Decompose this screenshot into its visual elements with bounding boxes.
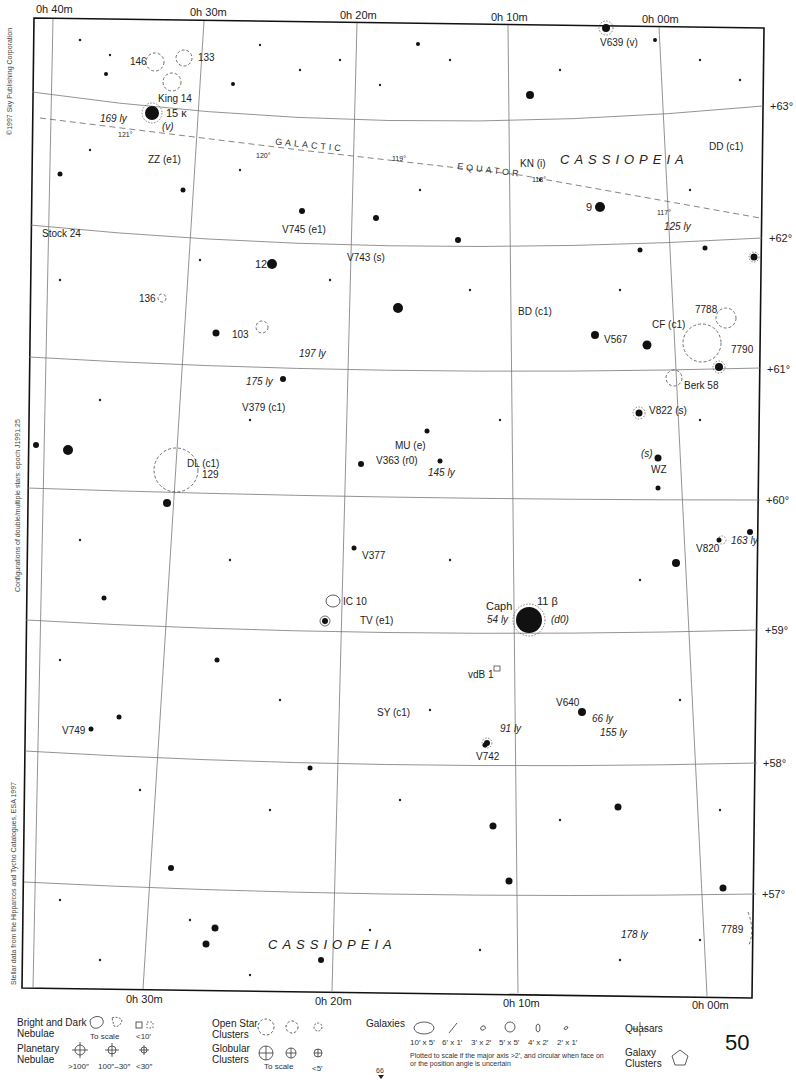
- dist-54-label: 54 ly: [487, 615, 508, 625]
- ngc136-cluster: [158, 294, 166, 302]
- kappa-label: 15 κ: [166, 108, 187, 119]
- ra-label-bottom-30m: 0h 30m: [126, 993, 163, 1005]
- ra-label-top-20m: 0h 20m: [340, 9, 377, 21]
- v742-label: V742: [476, 752, 499, 762]
- tv-label: TV (e1): [360, 616, 393, 626]
- legend-galaxy-note: Plotted to scale if the major axis >2′, …: [410, 1052, 610, 1068]
- legend-open-clusters: Open Star Clusters: [212, 1018, 264, 1040]
- ra-label-bottom-00m: 0h 00m: [692, 999, 729, 1011]
- legend-galaxy-size-1: 10′ x 5′: [410, 1038, 435, 1047]
- ngc146-label: 146: [130, 57, 147, 67]
- bd-label: BD (c1): [518, 307, 552, 317]
- v379-label: V379 (c1): [242, 403, 285, 413]
- legend-pn-mid: 100″–30″: [98, 1062, 130, 1071]
- legend-galaxy-size-2: 6′ x 1′: [442, 1038, 462, 1047]
- dec-grid-lines: [24, 92, 763, 896]
- king14-label: King 14: [158, 94, 192, 104]
- star-12-label: 12: [255, 259, 267, 270]
- ngc7790-cluster: [683, 324, 721, 362]
- dec-label-62: +62°: [769, 232, 792, 244]
- ic10-galaxy: [326, 595, 340, 607]
- legend-galaxy-size-3: 3′ x 2′: [471, 1038, 491, 1047]
- dist-66-label: 66 ly: [592, 714, 613, 724]
- v640-label: V640: [556, 698, 579, 708]
- ngc7788-label: 7788: [695, 305, 717, 315]
- galactic-equator-line: [40, 118, 760, 218]
- legend-galaxy-size-6: 2′ x 1′: [557, 1038, 577, 1047]
- ra-label-bottom-20m: 0h 20m: [315, 995, 352, 1007]
- dec-label-57: +57°: [762, 888, 785, 900]
- gal-long-118: 118°: [532, 176, 546, 183]
- v820-label: V820: [696, 544, 719, 554]
- ic10-label: IC 10: [343, 597, 367, 607]
- v639-label: V639 (v): [600, 38, 638, 48]
- king14-cluster: [163, 73, 181, 91]
- ngc103-cluster: [256, 321, 268, 333]
- ngc133-label: 133: [198, 53, 215, 63]
- ngc103-label: 103: [232, 330, 249, 340]
- star-9-label: 9: [586, 202, 592, 213]
- legend-pn-small: <30″: [136, 1062, 152, 1071]
- v749-label: V749: [62, 726, 85, 736]
- v743-label: V743 (s): [347, 253, 385, 263]
- wz-s-label: (s): [641, 449, 653, 459]
- cf-label: CF (c1): [652, 320, 685, 330]
- legend-bright-dark-nebulae: Bright and Dark Nebulae: [17, 1017, 87, 1039]
- ngc133-cluster: [176, 50, 192, 66]
- dec-label-63: +63°: [770, 100, 793, 112]
- vdb1-nebula: [494, 666, 500, 671]
- constellation-label-bottom: CASSIOPEIA: [268, 937, 397, 952]
- ra-label-bottom-10m: 0h 10m: [503, 997, 540, 1009]
- ra-label-top-30m: 0h 30m: [190, 6, 227, 18]
- ra-label-top-40m: 0h 40m: [36, 3, 73, 15]
- ra-label-top-00m: 0h 00m: [642, 13, 679, 25]
- ngc7789-cluster: [748, 912, 752, 945]
- sy-label: SY (c1): [377, 708, 410, 718]
- legend-bdn-small: <10′: [136, 1032, 151, 1041]
- ngc7789-label: 7789: [721, 925, 743, 935]
- dist-91-label: 91 ly: [500, 724, 521, 734]
- dist-197-label: 197 ly: [299, 349, 326, 359]
- ngc146-cluster: [146, 53, 164, 71]
- dist-163-label: 163 ly: [731, 536, 758, 546]
- dec-label-60: +60°: [766, 494, 789, 506]
- vdb1-label: vdB 1: [468, 670, 494, 680]
- dist-145-label: 145 ly: [428, 468, 455, 478]
- next-page-ref[interactable]: 66: [376, 1067, 384, 1074]
- epoch-credit: Configurations of double/multiple stars:…: [14, 419, 21, 592]
- legend-gc-small: <5′: [312, 1064, 323, 1073]
- legend-galaxy-clusters: Galaxy Clusters: [625, 1047, 670, 1069]
- ngc7790-label: 7790: [731, 345, 753, 355]
- dl-label: DL (c1): [187, 459, 219, 469]
- legend-bdn-to-scale: To scale: [90, 1032, 119, 1041]
- ra-label-top-10m: 0h 10m: [491, 11, 528, 23]
- ngc129-label: 129: [202, 470, 219, 480]
- v363-label: V363 (r0): [376, 456, 418, 466]
- next-page-arrow: [378, 1075, 384, 1079]
- v567-label: V567: [604, 335, 627, 345]
- gal-long-117: 117°: [657, 209, 671, 216]
- dist-178-label: 178 ly: [621, 930, 648, 940]
- legend-galaxy-size-4: 5′ x 5′: [499, 1038, 519, 1047]
- dist-175-label: 175 ly: [246, 377, 273, 387]
- gal-long-119: 119°: [392, 155, 406, 162]
- dist-169-label: 169 ly: [100, 114, 127, 124]
- ngc7788-cluster: [716, 308, 736, 328]
- gal-long-120: 120°: [256, 152, 270, 159]
- stock24-label: Stock 24: [42, 229, 81, 239]
- dist-125-label: 125 ly: [664, 222, 691, 232]
- berk58-cluster: [666, 370, 682, 386]
- v377-label: V377: [362, 551, 385, 561]
- copyright-credit: ©1997 Sky Publishing Corporation: [6, 28, 13, 135]
- gal-long-121: 121°: [118, 131, 132, 138]
- kn-label: KN (i): [520, 159, 546, 169]
- dec-label-58: +58°: [763, 757, 786, 769]
- legend-galaxy-size-5: 4′ x 2′: [528, 1038, 548, 1047]
- legend-globular-clusters: Globular Clusters: [212, 1043, 264, 1065]
- dec-label-61: +61°: [767, 363, 790, 375]
- dd-label: DD (c1): [709, 142, 743, 152]
- dec-label-59: +59°: [765, 624, 788, 636]
- berk58-label: Berk 58: [684, 381, 718, 391]
- page-number: 50: [725, 1030, 749, 1056]
- d0-label: (d0): [551, 615, 569, 625]
